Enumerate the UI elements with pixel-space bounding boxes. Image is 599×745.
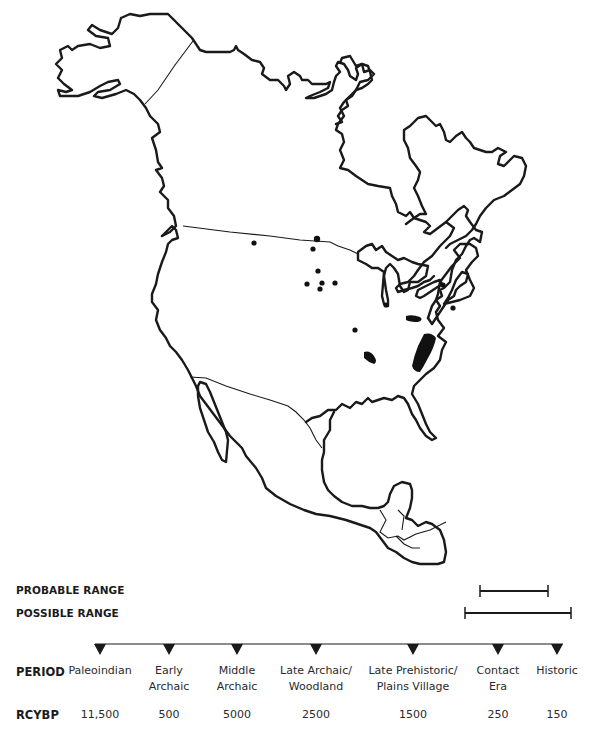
alaska-canada-border — [145, 41, 193, 104]
probable-range-label: PROBABLE RANGE — [16, 584, 125, 596]
possible-range-bar — [465, 607, 571, 619]
hudson-bay-shore — [336, 56, 526, 248]
site-dot — [383, 302, 388, 307]
rcybp-row-label: RCYBP — [16, 708, 59, 722]
period-marker-triangle — [551, 644, 563, 655]
period-label: Historic — [536, 663, 578, 679]
us-canada-border — [183, 226, 358, 254]
site-dot — [317, 286, 322, 291]
period-label: Early Archaic — [149, 663, 190, 695]
site-area — [364, 352, 376, 365]
rcybp-value: 150 — [547, 708, 568, 721]
site-dot — [314, 236, 320, 242]
site-dot — [251, 240, 256, 245]
site-area — [412, 334, 436, 373]
site-dot — [450, 305, 455, 310]
rcybp-value: 11,500 — [81, 708, 120, 721]
timeline-markers — [94, 644, 563, 655]
period-label: Contact Era — [477, 663, 520, 695]
possible-range-label: POSSIBLE RANGE — [16, 607, 119, 619]
period-label: Late Archaic/ Woodland — [280, 663, 352, 695]
rcybp-value: 250 — [488, 708, 509, 721]
period-marker-triangle — [231, 644, 243, 655]
north-america-map — [0, 0, 599, 745]
site-dot — [315, 268, 320, 273]
us-mexico-border — [190, 377, 322, 448]
period-row-label: PERIOD — [16, 665, 65, 679]
rcybp-value: 500 — [159, 708, 180, 721]
site-dot — [440, 282, 445, 287]
period-marker-triangle — [492, 644, 504, 655]
baja-california — [198, 382, 228, 462]
rcybp-value: 1500 — [399, 708, 427, 721]
central-america-borders — [380, 510, 446, 548]
site-marks — [251, 236, 455, 372]
rcybp-value: 2500 — [302, 708, 330, 721]
site-dot — [352, 327, 357, 332]
period-label: Middle Archaic — [217, 663, 258, 695]
coastline-north — [56, 14, 372, 236]
period-marker-triangle — [94, 644, 106, 655]
period-label: Paleoindian — [68, 663, 131, 679]
period-label: Late Prehistoric/ Plains Village — [368, 663, 457, 695]
period-marker-triangle — [163, 644, 175, 655]
site-area — [406, 315, 422, 322]
site-dot — [332, 280, 337, 285]
period-marker-triangle — [407, 644, 419, 655]
period-marker-triangle — [310, 644, 322, 655]
site-dot — [304, 281, 309, 286]
site-dot — [310, 246, 315, 251]
rcybp-value: 5000 — [223, 708, 251, 721]
site-dot — [319, 280, 324, 285]
probable-range-bar — [480, 585, 548, 597]
